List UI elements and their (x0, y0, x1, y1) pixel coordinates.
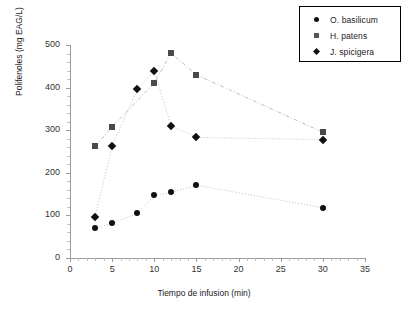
x-tick-minor (95, 258, 96, 261)
x-tick-minor (331, 258, 332, 261)
data-point-circle (109, 220, 115, 226)
y-axis-line (70, 45, 71, 258)
y-tick-minor (67, 147, 70, 148)
y-tick-minor (67, 105, 70, 106)
y-tick-minor (67, 113, 70, 114)
x-tick (239, 258, 240, 262)
chart-legend: O. basilicum H. patens J. spicigera (299, 6, 401, 62)
figure-caption (0, 303, 408, 312)
legend-label: H. patens (330, 31, 367, 41)
data-point-circle (92, 225, 98, 231)
y-tick-label: 200 (32, 167, 60, 177)
y-tick-minor (67, 96, 70, 97)
x-tick-minor (137, 258, 138, 261)
data-point-circle (168, 189, 174, 195)
y-tick-minor (67, 54, 70, 55)
x-tick-label: 30 (311, 264, 335, 274)
x-tick (365, 258, 366, 262)
legend-label: O. basilicum (330, 15, 378, 25)
x-tick-minor (222, 258, 223, 261)
y-tick-minor (67, 181, 70, 182)
x-tick-minor (298, 258, 299, 261)
x-tick-minor (255, 258, 256, 261)
x-tick-label: 0 (58, 264, 82, 274)
legend-item-2[interactable]: J. spicigera (306, 44, 396, 59)
y-axis-title: Polifenoles (mg EAG/L) (14, 7, 24, 96)
x-tick-minor (314, 258, 315, 261)
x-tick-minor (129, 258, 130, 261)
x-tick-minor (188, 258, 189, 261)
x-tick-minor (247, 258, 248, 261)
data-point-diamond (319, 135, 327, 143)
x-tick-minor (205, 258, 206, 261)
x-tick-minor (213, 258, 214, 261)
x-tick-label: 20 (227, 264, 251, 274)
chart-figure: Polifenoles (mg EAG/L) Tiempo de infusio… (0, 0, 408, 312)
x-tick-minor (104, 258, 105, 261)
y-tick-minor (67, 79, 70, 80)
x-tick (281, 258, 282, 262)
y-tick (66, 45, 70, 46)
x-tick-minor (357, 258, 358, 261)
x-tick-minor (78, 258, 79, 261)
data-point-diamond (150, 67, 158, 75)
y-tick-minor (67, 71, 70, 72)
x-tick (112, 258, 113, 262)
x-tick-label: 5 (100, 264, 124, 274)
series-line (95, 71, 323, 217)
data-point-diamond (133, 85, 141, 93)
y-tick-minor (67, 241, 70, 242)
y-tick-minor (67, 62, 70, 63)
x-tick-minor (306, 258, 307, 261)
data-point-circle (320, 205, 326, 211)
data-point-circle (134, 210, 140, 216)
data-point-square (151, 80, 157, 86)
legend-item-0[interactable]: O. basilicum (306, 12, 396, 27)
data-point-square (320, 129, 326, 135)
x-tick-minor (230, 258, 231, 261)
x-tick-minor (289, 258, 290, 261)
x-tick-minor (121, 258, 122, 261)
y-tick (66, 173, 70, 174)
x-tick-label: 25 (269, 264, 293, 274)
x-tick-minor (171, 258, 172, 261)
x-tick (323, 258, 324, 262)
x-axis-title: Tiempo de infusion (min) (0, 288, 408, 298)
x-axis-line (70, 258, 366, 259)
x-tick-label: 15 (184, 264, 208, 274)
x-tick-minor (163, 258, 164, 261)
y-tick (66, 215, 70, 216)
data-point-circle (151, 192, 157, 198)
y-tick (66, 88, 70, 89)
x-tick (70, 258, 71, 262)
legend-item-1[interactable]: H. patens (306, 28, 396, 43)
y-tick-minor (67, 207, 70, 208)
series-line (95, 185, 323, 228)
data-point-diamond (108, 142, 116, 150)
data-point-diamond (167, 122, 175, 130)
circle-marker-icon (306, 17, 326, 22)
data-point-square (168, 50, 174, 56)
y-tick-label: 400 (32, 82, 60, 92)
data-point-square (193, 72, 199, 78)
y-tick-label: 300 (32, 124, 60, 134)
legend-label: J. spicigera (330, 47, 374, 57)
x-tick-minor (264, 258, 265, 261)
data-point-circle (193, 182, 199, 188)
x-tick-minor (146, 258, 147, 261)
data-point-square (109, 124, 115, 130)
diamond-marker-icon (306, 49, 326, 54)
y-tick-minor (67, 232, 70, 233)
y-tick-minor (67, 122, 70, 123)
x-tick (154, 258, 155, 262)
x-tick-minor (180, 258, 181, 261)
square-marker-icon (306, 33, 326, 38)
y-tick-label: 500 (32, 39, 60, 49)
y-tick-minor (67, 198, 70, 199)
y-tick-label: 100 (32, 209, 60, 219)
x-tick-label: 35 (353, 264, 377, 274)
x-tick (196, 258, 197, 262)
y-tick-minor (67, 190, 70, 191)
series-line (95, 53, 323, 146)
x-tick-minor (87, 258, 88, 261)
